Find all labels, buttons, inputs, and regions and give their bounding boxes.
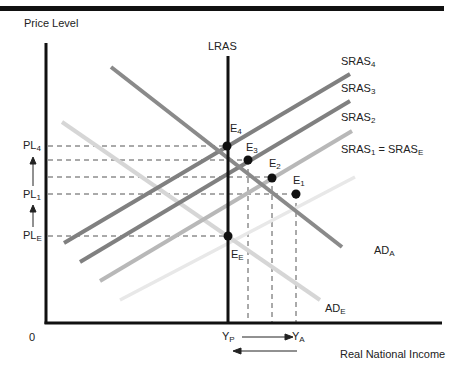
ad-e-label: ADE	[325, 302, 346, 316]
price-guide-lines	[48, 146, 296, 236]
ya-label: YA	[292, 330, 305, 344]
ad-a-label: ADA	[374, 244, 395, 258]
e3-label: E3	[246, 141, 258, 155]
sras1-curve	[120, 177, 355, 300]
point-e1	[292, 190, 301, 199]
yp-label: YP	[222, 330, 235, 344]
income-guide-lines	[248, 160, 296, 322]
diagram-canvas	[0, 0, 460, 373]
sras1-label: SRAS1 = SRASE	[341, 143, 423, 157]
point-e2	[268, 174, 277, 183]
y-axis-label: Price Level	[24, 17, 78, 29]
sras4-label: SRAS4	[341, 55, 375, 69]
pl4-label: PL4	[23, 139, 41, 153]
point-e3	[244, 156, 253, 165]
top-border	[0, 6, 444, 11]
ple-label: PLE	[23, 229, 42, 243]
point-e4	[223, 142, 232, 151]
sras3-label: SRAS3	[341, 82, 375, 96]
income-arrows	[233, 334, 297, 354]
e1-label: E1	[293, 174, 305, 188]
origin-label: 0	[29, 331, 35, 343]
pl1-label: PL1	[23, 188, 41, 202]
lras-label: LRAS	[208, 40, 237, 52]
e2-label: E2	[269, 157, 281, 171]
sras2-curve	[100, 131, 352, 281]
x-axis-label: Real National Income	[340, 348, 445, 360]
ee-label: EE	[231, 248, 244, 262]
sras3-curve	[80, 101, 350, 262]
ad-e-curve	[62, 122, 320, 300]
e4-label: E4	[230, 122, 242, 136]
point-ee	[224, 232, 233, 241]
sras2-label: SRAS2	[341, 111, 375, 125]
